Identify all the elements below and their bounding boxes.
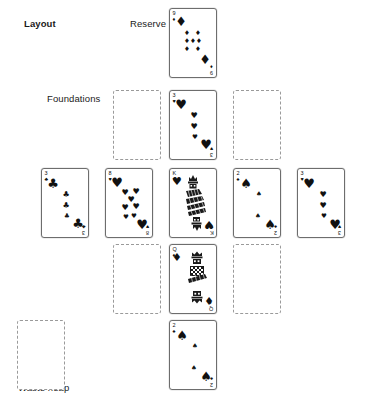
pip-club: ♣: [72, 217, 84, 230]
pip-diamond: ♦: [184, 38, 190, 45]
king-court-illustration: [183, 173, 211, 233]
bottom-card[interactable]: 2 ♠ 2 ♠ ♠ ♠ ♠ ♠: [169, 320, 217, 390]
pip-diamond: ♦: [196, 38, 202, 45]
pip-heart: ♥: [172, 176, 182, 187]
pip-heart: ♥: [329, 218, 341, 231]
pip-spade: ♠: [192, 343, 198, 350]
pip-heart: ♥: [190, 123, 197, 131]
pip-heart: ♥: [175, 98, 187, 111]
pip-diamond: ♦: [195, 30, 201, 37]
card-face-pips: ♦ ♦ ♦ ♦ ♦ ♦ ♦ ♦ ♦: [170, 9, 216, 77]
card-face-pips: ♥ ♥ ♥ ♥ ♥: [170, 91, 216, 159]
lower-slot-empty-right[interactable]: [233, 244, 281, 314]
lower-card-queen[interactable]: Q ♦ Q ♦ ♦ ♦: [169, 244, 217, 314]
tableau-card-3-king[interactable]: K ♥ K ♥ ♥ ♥: [169, 168, 217, 238]
pip-heart: ♥: [200, 138, 212, 151]
foundation-slot-empty-left[interactable]: [113, 90, 161, 160]
pip-heart: ♥: [319, 191, 326, 199]
pip-heart: ♥: [111, 176, 123, 189]
pip-heart: ♥: [319, 202, 326, 210]
pip-club: ♣: [62, 202, 69, 210]
card-face-pips: ♠ ♠ ♠ ♠: [234, 169, 280, 237]
tableau-card-5[interactable]: 3 ♥ 3 ♥ ♥ ♥ ♥ ♥ ♥: [297, 168, 345, 238]
pip-spade: ♠: [176, 329, 188, 342]
card-face-pips: ♥ ♥ ♥ ♥ ♥: [298, 169, 344, 237]
pip-heart: ♥: [121, 204, 128, 212]
pip-spade: ♠: [200, 370, 212, 383]
reserve-card[interactable]: 9 ♦ 9 ♦ ♦ ♦ ♦ ♦ ♦ ♦ ♦ ♦ ♦: [169, 8, 217, 78]
pip-diamond: ♦: [172, 252, 182, 263]
pip-diamond: ♦: [184, 30, 190, 37]
pip-spade: ♠: [255, 213, 261, 220]
diagram-title: Layout: [24, 18, 56, 29]
pip-spade: ♠: [264, 218, 276, 231]
pip-diamond: ♦: [175, 15, 187, 28]
foundations-label: Foundations: [47, 93, 100, 104]
foundation-slot-empty-right[interactable]: [233, 90, 281, 160]
foundation-card-center[interactable]: 3 ♥ 3 ♥ ♥ ♥ ♥ ♥ ♥: [169, 90, 217, 160]
card-face-pips: ♥ ♥ ♥ ♥ ♥ ♥ ♥ ♥ ♥: [106, 169, 152, 237]
pip-diamond: ♦: [199, 53, 211, 66]
pip-spade: ♠: [256, 191, 262, 198]
tableau-card-2[interactable]: 8 ♥ 8 ♥ ♥ ♥ ♥ ♥ ♥ ♥ ♥ ♥ ♥: [105, 168, 153, 238]
pip-club: ♣: [62, 191, 69, 199]
tableau-card-4[interactable]: 2 ♠ 2 ♠ ♠ ♠ ♠ ♠: [233, 168, 281, 238]
tableau-card-1[interactable]: 3 ♣ 3 ♣ ♣ ♣ ♣ ♣ ♣: [41, 168, 89, 238]
pip-heart: ♥: [190, 112, 197, 120]
pip-heart: ♥: [192, 134, 198, 141]
card-face-pips: ♠ ♠ ♠ ♠: [170, 321, 216, 389]
reserve-label: Reserve: [130, 18, 166, 29]
pip-heart: ♥: [136, 218, 148, 231]
pip-spade: ♠: [191, 365, 197, 372]
card-face-pips: ♣ ♣ ♣ ♣ ♣: [42, 169, 88, 237]
queen-court-illustration: [185, 249, 213, 309]
pip-heart: ♥: [321, 213, 327, 220]
pip-club: ♣: [47, 177, 59, 190]
lower-slot-empty-left[interactable]: [113, 244, 161, 314]
pip-club: ♣: [64, 213, 70, 220]
card-layout-diagram: Layout Reserve Foundations Waste heap 9 …: [0, 0, 368, 412]
pip-diamond: ♦: [184, 46, 190, 53]
pip-heart: ♥: [132, 203, 139, 211]
pip-heart: ♥: [123, 214, 129, 221]
waste-heap-slot[interactable]: [17, 320, 65, 390]
pip-spade: ♠: [240, 177, 252, 190]
pip-heart: ♥: [303, 177, 315, 190]
pip-diamond: ♦: [190, 38, 196, 45]
